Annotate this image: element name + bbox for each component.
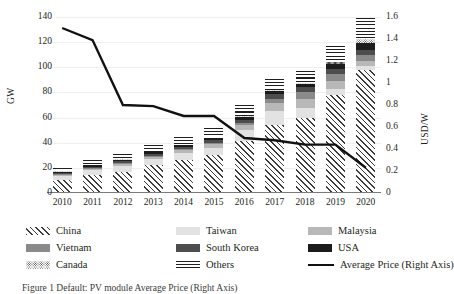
bar-slot xyxy=(199,17,229,193)
y-tick-label-right: 1.4 xyxy=(386,34,416,44)
x-axis-ticks: 2010201120122013201420152016201720182019… xyxy=(47,196,381,212)
stacked-bar xyxy=(265,79,284,193)
y-tick-label-right: 1.2 xyxy=(386,56,416,66)
stacked-bar xyxy=(174,137,193,194)
bar-slot xyxy=(77,17,107,193)
legend-swatch-malaysia-icon xyxy=(308,227,332,235)
stacked-bar xyxy=(144,145,163,193)
legend-label: Canada xyxy=(56,259,88,270)
y-tick-label-left: 140 xyxy=(24,12,52,22)
y-tick-label-right: 0.2 xyxy=(386,166,416,176)
bar-segment xyxy=(204,155,223,193)
legend-label: Others xyxy=(206,259,234,270)
stacked-bar xyxy=(296,71,315,193)
y-axis-title-left: GW xyxy=(6,88,16,104)
bar-slot xyxy=(138,17,168,193)
bar-segment xyxy=(144,165,163,193)
legend: ChinaTaiwanMalaysiaVietnamSouth KoreaUSA… xyxy=(26,222,418,273)
bar-segment xyxy=(265,125,284,193)
x-tick-label: 2013 xyxy=(138,196,168,212)
y-tick-label-left: 100 xyxy=(24,62,52,72)
y-tick-label-left: 80 xyxy=(24,87,52,97)
figure-caption: Figure 1 Default: PV module Average Pric… xyxy=(22,283,422,294)
bar-slot xyxy=(290,17,320,193)
legend-label: South Korea xyxy=(206,242,259,253)
bar-segment xyxy=(204,128,223,138)
bar-segment xyxy=(113,172,132,193)
y-tick-label-left: 40 xyxy=(24,138,52,148)
bar-segment xyxy=(296,99,315,108)
legend-label: USA xyxy=(338,242,359,253)
x-tick-label: 2019 xyxy=(320,196,350,212)
y-tick-label-left: 20 xyxy=(24,163,52,173)
bar-segment xyxy=(235,130,254,141)
y-tick-label-right: 0.6 xyxy=(386,122,416,132)
x-tick-label: 2010 xyxy=(47,196,77,212)
legend-swatch-usa-icon xyxy=(308,244,332,252)
legend-item-avgprice: Average Price (Right Axis) xyxy=(308,259,454,270)
stacked-bar xyxy=(113,154,132,193)
chart-area: GW USD/W 020406080100120140 00.20.40.60.… xyxy=(0,0,436,215)
y-tick-label-left: 120 xyxy=(24,37,52,47)
x-axis-line xyxy=(47,192,381,193)
y-tick-label-right: 0.4 xyxy=(386,144,416,154)
legend-item-usa: USA xyxy=(308,242,454,253)
bar-segment xyxy=(356,18,375,39)
bar-segment xyxy=(326,95,345,193)
bar-segment xyxy=(174,137,193,145)
bar-segment xyxy=(265,103,284,112)
bar-segment xyxy=(356,43,375,51)
bar-segment xyxy=(174,160,193,193)
x-tick-label: 2017 xyxy=(260,196,290,212)
bar-segment xyxy=(235,141,254,193)
legend-swatch-taiwan-icon xyxy=(176,227,200,235)
legend-item-taiwan: Taiwan xyxy=(176,225,308,236)
y-tick-label-right: 1.6 xyxy=(386,12,416,22)
bar-segment xyxy=(326,81,345,89)
legend-label: Malaysia xyxy=(338,225,377,236)
x-tick-label: 2012 xyxy=(108,196,138,212)
bar-segment xyxy=(296,118,315,193)
legend-swatch-vietnam-icon xyxy=(26,244,50,252)
stacked-bar xyxy=(83,160,102,193)
bar-slot xyxy=(260,17,290,193)
legend-swatch-china-icon xyxy=(26,227,50,235)
bar-slot xyxy=(108,17,138,193)
stacked-bar xyxy=(204,128,223,193)
y-tick-label-right: 0.8 xyxy=(386,100,416,110)
legend-swatch-southkorea-icon xyxy=(176,244,200,252)
legend-swatch-line-icon xyxy=(308,264,334,266)
x-tick-label: 2018 xyxy=(290,196,320,212)
legend-item-others: Others xyxy=(176,259,308,270)
legend-label: Vietnam xyxy=(56,242,92,253)
x-tick-label: 2020 xyxy=(351,196,381,212)
legend-label: Taiwan xyxy=(206,225,237,236)
bar-segment xyxy=(204,148,223,156)
y-axis-title-right: USD/W xyxy=(420,113,430,145)
x-tick-label: 2011 xyxy=(77,196,107,212)
stacked-bar xyxy=(356,18,375,193)
bar-segment xyxy=(296,108,315,118)
x-tick-label: 2014 xyxy=(168,196,198,212)
x-tick-label: 2016 xyxy=(229,196,259,212)
bar-slot xyxy=(168,17,198,193)
bar-segment xyxy=(235,105,254,116)
legend-item-vietnam: Vietnam xyxy=(26,242,176,253)
legend-swatch-others-icon xyxy=(176,261,200,269)
bar-slot xyxy=(320,17,350,193)
bar-segment xyxy=(83,175,102,193)
x-tick-label: 2015 xyxy=(199,196,229,212)
legend-swatch-canada-icon xyxy=(26,261,50,269)
legend-label: Average Price (Right Axis) xyxy=(340,259,454,270)
bar-segment xyxy=(296,71,315,83)
legend-item-china: China xyxy=(26,225,176,236)
bar-segment xyxy=(265,111,284,125)
bar-segment xyxy=(326,46,345,62)
bar-segment xyxy=(356,70,375,193)
stacked-bar xyxy=(53,168,72,193)
y-tick-label-right: 0 xyxy=(386,188,416,198)
legend-item-southkorea: South Korea xyxy=(176,242,308,253)
y-tick-label-right: 1 xyxy=(386,78,416,88)
stacked-bar xyxy=(326,46,345,193)
